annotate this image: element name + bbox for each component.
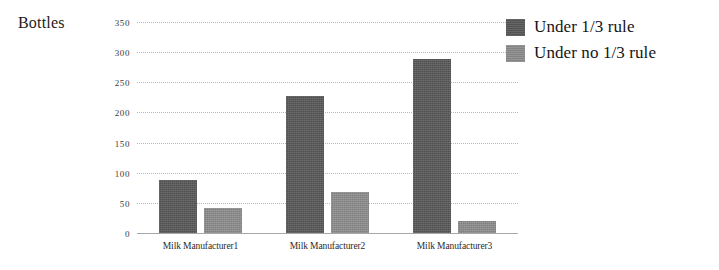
y-axis-tick-label: 0 bbox=[125, 229, 130, 239]
bar-under-no-one-third-rule bbox=[204, 208, 242, 233]
y-axis-title: Bottles bbox=[18, 14, 65, 32]
bar-group bbox=[413, 22, 496, 233]
legend-label: Under no 1/3 rule bbox=[534, 43, 656, 63]
bar-chart-figure: Bottles 050100150200250300350 Milk Manuf… bbox=[0, 0, 719, 270]
bar-under-no-one-third-rule bbox=[458, 221, 496, 233]
x-axis-tick-label: Milk Manufacturer1 bbox=[137, 241, 264, 251]
y-axis-tick-label: 300 bbox=[115, 48, 130, 58]
y-axis-tick-label: 50 bbox=[120, 199, 130, 209]
bar-under-no-one-third-rule bbox=[331, 192, 369, 233]
bar-group bbox=[286, 22, 369, 233]
x-axis-tick-label: Milk Manufacturer2 bbox=[264, 241, 391, 251]
y-axis-tick-label: 100 bbox=[115, 169, 130, 179]
legend-swatch-dark-icon bbox=[506, 19, 525, 36]
bar-under-one-third-rule bbox=[413, 59, 451, 233]
y-axis-tick-label: 200 bbox=[115, 108, 130, 118]
plot-area: 050100150200250300350 Milk Manufacturer1… bbox=[137, 22, 518, 233]
x-axis-baseline: 0 bbox=[137, 233, 518, 234]
bar-group bbox=[159, 22, 242, 233]
y-axis-tick-label: 150 bbox=[115, 139, 130, 149]
legend-entry: Under no 1/3 rule bbox=[506, 43, 656, 63]
y-axis-tick-label: 250 bbox=[115, 78, 130, 88]
bar-under-one-third-rule bbox=[286, 96, 324, 233]
chart-legend: Under 1/3 ruleUnder no 1/3 rule bbox=[506, 17, 656, 63]
bar-under-one-third-rule bbox=[159, 180, 197, 233]
y-axis-tick-label: 350 bbox=[115, 18, 130, 28]
x-axis-tick-label: Milk Manufacturer3 bbox=[391, 241, 518, 251]
legend-entry: Under 1/3 rule bbox=[506, 17, 656, 37]
legend-label: Under 1/3 rule bbox=[534, 17, 635, 37]
legend-swatch-light-icon bbox=[506, 45, 525, 62]
